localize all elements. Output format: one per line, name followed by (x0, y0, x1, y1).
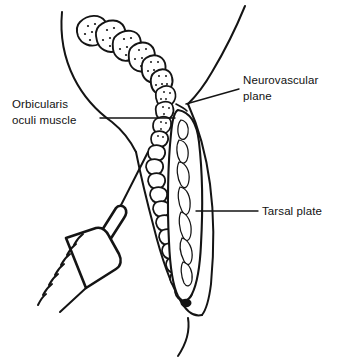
label-tarsal-line1: Tarsal plate (262, 205, 322, 217)
eyelid-cross-section-diagram: Orbicularis oculi muscle Neurovascular p… (0, 0, 350, 358)
label-neurovascular-line2: plane (243, 90, 272, 102)
muscle-bundle (150, 187, 167, 203)
lid-margin-orifice (181, 299, 192, 307)
tarsal-plate (168, 110, 202, 307)
label-tarsal-plate: Tarsal plate (262, 205, 322, 217)
label-orbicularis-line2: oculi muscle (12, 114, 76, 126)
label-orbicularis-line1: Orbicularis (12, 98, 68, 110)
label-neurovascular-line1: Neurovascular (243, 74, 319, 86)
figure-root: Orbicularis oculi muscle Neurovascular p… (0, 0, 350, 358)
